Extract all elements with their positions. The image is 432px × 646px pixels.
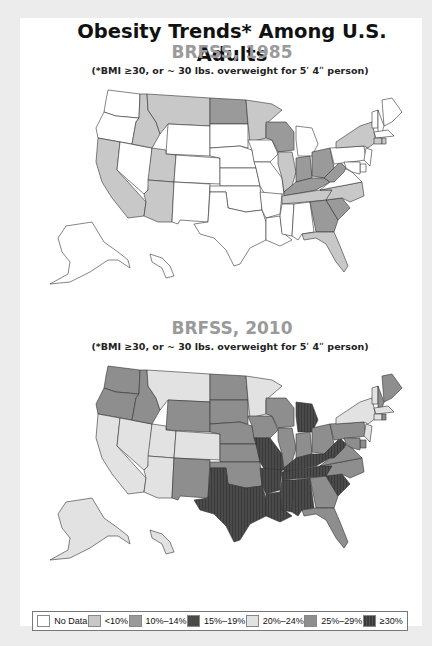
state-nm [172,458,210,500]
state-fl [302,232,348,272]
legend-swatch [246,615,259,627]
state-ak [50,222,130,284]
state-ct [374,414,382,420]
bmi-note-2010: (*BMI ≥30, or ~ 30 lbs. overweight for 5… [20,341,422,352]
legend-label: <10% [105,616,128,626]
state-ak [50,498,130,560]
legend-label: 10%–14% [146,616,187,626]
state-pa [330,422,366,440]
state-nj [364,424,372,442]
state-co [174,155,220,184]
state-pa [330,146,366,164]
legend: No Data<10%10%–14%15%–19%20%–24%25%–29%≥… [32,611,408,631]
state-az [144,456,174,498]
state-in [296,156,312,182]
state-ma [374,130,394,138]
state-ri [382,414,386,420]
map-subtitle-1985: BRFSS, 1985 [20,42,422,62]
legend-label: 25%–29% [321,616,362,626]
state-wy [166,400,210,432]
legend-item: 15%–19% [187,615,245,627]
state-hi [150,530,174,554]
state-sd [210,400,248,424]
legend-item: <10% [88,615,128,627]
legend-item: 25%–29% [304,615,362,627]
legend-item: 20%–24% [246,615,304,627]
legend-item: No Data [37,615,87,627]
state-de [360,164,366,172]
legend-swatch [37,615,50,627]
state-ms [280,480,294,512]
state-ny [336,398,376,424]
state-nj [364,148,372,166]
state-az [144,180,174,222]
state-me [382,374,402,402]
legend-item: ≥30% [363,615,403,627]
state-ks [220,444,260,462]
map-subtitle-2010: BRFSS, 2010 [20,318,422,338]
state-sd [210,124,248,148]
legend-label: 20%–24% [263,616,304,626]
state-vt [372,110,378,128]
state-in [296,432,312,458]
us-map-1985 [20,82,422,297]
state-ct [374,138,382,144]
legend-swatch [363,615,376,627]
state-co [174,431,220,460]
state-fl [302,508,348,548]
state-ms [280,204,294,236]
state-wy [166,124,210,156]
state-nm [172,182,210,224]
legend-label: 15%–19% [204,616,245,626]
legend-label: No Data [54,616,87,626]
state-vt [372,386,378,404]
state-ks [220,168,260,186]
state-ri [382,138,386,144]
state-ny [336,122,376,148]
state-ma [374,406,394,414]
state-hi [150,254,174,278]
legend-swatch [187,615,200,627]
legend-swatch [304,615,317,627]
legend-item: 10%–14% [129,615,187,627]
us-map-2010 [20,358,422,573]
legend-label: ≥30% [380,616,403,626]
figure-page: Obesity Trends* Among U.S. Adults BRFSS,… [20,18,422,626]
state-me [382,98,402,126]
legend-swatch [129,615,142,627]
bmi-note-1985: (*BMI ≥30, or ~ 30 lbs. overweight for 5… [20,65,422,76]
state-de [360,440,366,448]
state-nd [210,98,248,124]
state-nd [210,374,248,400]
legend-swatch [88,615,101,627]
